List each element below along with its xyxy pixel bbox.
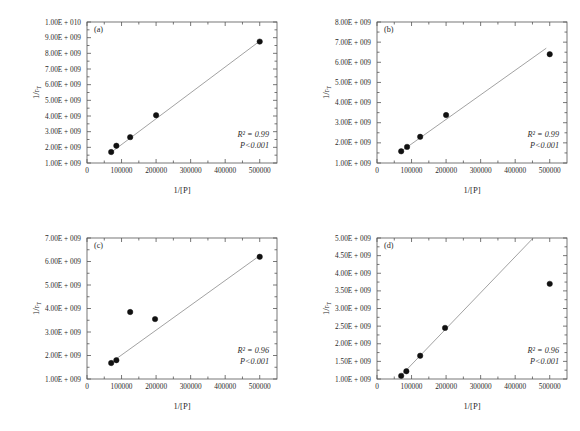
y-axis-title-main: 1/r <box>31 305 41 315</box>
y-tick-label: 5.00E + 009 <box>335 234 371 243</box>
y-axis-title: 1/rT <box>321 86 332 100</box>
chart-svg-a: 01000002000003000004000005000001.00E + 0… <box>0 0 290 215</box>
x-tick-label: 0 <box>85 166 89 175</box>
x-tick-label: 400000 <box>504 382 526 391</box>
data-point <box>152 316 157 321</box>
data-point <box>398 373 403 378</box>
y-tick-label: 4.50E + 009 <box>335 251 371 260</box>
x-tick-label: 300000 <box>470 382 492 391</box>
data-point <box>547 52 552 57</box>
chart-svg-b: 01000002000003000004000005000001.00E + 0… <box>290 0 580 215</box>
y-axis-title: 1/rT <box>31 86 42 100</box>
y-tick-label: 4.00E + 009 <box>335 98 371 107</box>
y-tick-label: 6.00E + 009 <box>45 80 81 89</box>
chart-panel-d: 01000002000003000004000005000001.00E + 0… <box>290 216 580 431</box>
data-point <box>257 254 262 259</box>
x-tick-label: 300000 <box>180 166 202 175</box>
data-point <box>404 144 409 149</box>
x-tick-label: 200000 <box>435 166 457 175</box>
x-tick-label: 100000 <box>111 166 133 175</box>
y-axis-title-subscript: T <box>36 86 42 90</box>
x-axis-title: 1/[P] <box>463 185 480 195</box>
x-tick-label: 300000 <box>180 382 202 391</box>
data-point <box>108 149 113 154</box>
x-tick-label: 400000 <box>504 166 526 175</box>
y-tick-label: 3.00E + 009 <box>45 127 81 136</box>
p-value-annotation: P<0.001 <box>529 357 559 366</box>
data-point <box>114 358 119 363</box>
data-point <box>114 143 119 148</box>
chart-svg-d: 01000002000003000004000005000001.00E + 0… <box>290 216 580 431</box>
y-tick-label: 1.50E + 009 <box>335 357 371 366</box>
y-tick-label: 2.00E + 009 <box>45 143 81 152</box>
chart-svg-c: 01000002000003000004000005000001.00E + 0… <box>0 216 290 431</box>
y-tick-label: 3.00E + 009 <box>335 118 371 127</box>
data-point <box>442 325 447 330</box>
regression-line <box>115 256 259 360</box>
x-tick-label: 0 <box>375 166 379 175</box>
y-tick-label: 4.00E + 009 <box>335 269 371 278</box>
panel-letter: (b) <box>384 25 394 34</box>
x-tick-label: 200000 <box>435 382 457 391</box>
y-tick-label: 4.00E + 009 <box>45 112 81 121</box>
x-tick-label: 200000 <box>145 382 167 391</box>
x-tick-label: 300000 <box>470 166 492 175</box>
y-axis-title-main: 1/r <box>321 89 331 99</box>
x-tick-label: 100000 <box>401 382 423 391</box>
y-axis-title: 1/rT <box>31 302 42 316</box>
y-tick-label: 7.00E + 009 <box>45 65 81 74</box>
x-tick-label: 100000 <box>111 382 133 391</box>
r-squared-annotation: R² = 0.96 <box>237 346 270 355</box>
y-tick-label: 3.00E + 009 <box>335 304 371 313</box>
x-axis-title: 1/[P] <box>463 401 480 411</box>
data-point <box>404 369 409 374</box>
chart-panel-a: 01000002000003000004000005000001.00E + 0… <box>0 0 290 215</box>
p-value-annotation: P<0.001 <box>529 141 559 150</box>
r-squared-annotation: R² = 0.99 <box>237 130 269 139</box>
y-axis-title-main: 1/r <box>321 305 331 315</box>
r-squared-annotation: R² = 0.96 <box>527 346 560 355</box>
data-point <box>127 134 132 139</box>
y-tick-label: 4.00E + 009 <box>45 304 81 313</box>
y-axis-title-subscript: T <box>36 302 42 306</box>
p-value-annotation: P<0.001 <box>239 357 269 366</box>
p-value-annotation: P<0.001 <box>239 141 269 150</box>
data-point <box>547 281 552 286</box>
y-tick-label: 1.00E + 009 <box>335 159 371 168</box>
panel-letter: (c) <box>94 241 103 250</box>
x-tick-label: 400000 <box>214 166 236 175</box>
y-tick-label: 1.00E + 009 <box>45 159 81 168</box>
data-point <box>127 309 132 314</box>
r-squared-annotation: R² = 0.99 <box>527 130 559 139</box>
y-tick-label: 6.00E + 009 <box>335 58 371 67</box>
y-tick-label: 5.00E + 009 <box>45 281 81 290</box>
x-tick-label: 500000 <box>539 166 561 175</box>
y-tick-label: 2.00E + 009 <box>335 339 371 348</box>
x-tick-label: 400000 <box>214 382 236 391</box>
x-tick-label: 500000 <box>249 166 271 175</box>
x-tick-label: 0 <box>85 382 89 391</box>
fit-line-group <box>115 256 259 360</box>
data-point <box>153 113 158 118</box>
data-point <box>257 39 262 44</box>
y-tick-label: 8.00E + 009 <box>335 18 371 27</box>
data-point <box>417 134 422 139</box>
data-point <box>398 149 403 154</box>
y-tick-label: 1.00E + 009 <box>45 375 81 384</box>
x-tick-label: 200000 <box>145 166 167 175</box>
data-point <box>417 353 422 358</box>
y-axis-title: 1/rT <box>321 302 332 316</box>
data-point <box>108 360 113 365</box>
panel-letter: (a) <box>94 25 103 34</box>
x-axis-title: 1/[P] <box>173 401 190 411</box>
x-tick-label: 0 <box>375 382 379 391</box>
y-tick-label: 3.00E + 009 <box>45 328 81 337</box>
y-tick-label: 9.00E + 009 <box>45 33 81 42</box>
x-tick-label: 500000 <box>249 382 271 391</box>
y-tick-label: 7.00E + 009 <box>45 234 81 243</box>
y-tick-label: 1.00E + 010 <box>45 18 81 27</box>
y-tick-label: 1.00E + 009 <box>335 375 371 384</box>
y-tick-label: 8.00E + 009 <box>45 49 81 58</box>
y-tick-label: 2.00E + 009 <box>45 351 81 360</box>
panel-letter: (d) <box>384 241 394 250</box>
